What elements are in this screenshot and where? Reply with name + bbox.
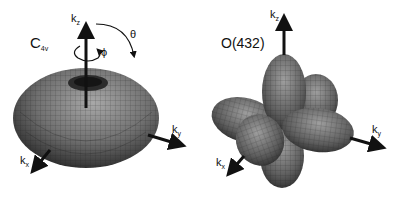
panel-title-c4v: C4v bbox=[30, 34, 49, 52]
ky-axis-arrow bbox=[148, 135, 178, 144]
ky-label-2: ky bbox=[372, 123, 382, 138]
kz-label: kz bbox=[71, 12, 81, 26]
panel-c4v: kz C4v ϕ θ ky kx bbox=[13, 12, 182, 168]
kz-label-2: kz bbox=[270, 8, 280, 22]
phi-label: ϕ bbox=[101, 46, 107, 58]
ky-axis-arrow-2 bbox=[350, 138, 378, 146]
theta-label: θ bbox=[130, 28, 136, 40]
kx-label-2: kx bbox=[216, 156, 226, 170]
ky-label: ky bbox=[172, 123, 182, 138]
panel-o432: kz O(432) ky kx bbox=[206, 8, 381, 188]
kx-label: kx bbox=[20, 154, 30, 168]
figure: kz C4v ϕ θ ky kx bbox=[0, 0, 396, 201]
panel-title-o432: O(432) bbox=[221, 35, 265, 51]
kx-axis-arrow-2 bbox=[232, 156, 244, 170]
